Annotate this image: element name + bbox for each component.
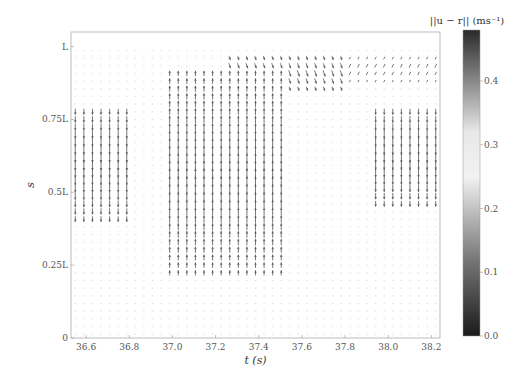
arrow-head — [228, 123, 231, 125]
quiver-arrow — [194, 108, 197, 115]
quiver-arrow — [117, 124, 120, 131]
quiver-arrow — [186, 138, 189, 146]
arrow-head — [186, 108, 189, 110]
quiver-arrow — [228, 270, 231, 275]
quiver-arrow — [220, 262, 223, 267]
quiver-arrow — [263, 63, 265, 68]
arrow-shaft — [435, 57, 436, 60]
arrow-shaft — [392, 80, 393, 82]
quiver-arrow — [375, 72, 377, 75]
quiver-arrow — [332, 63, 334, 68]
quiver-arrow — [186, 153, 189, 162]
quiver-arrow — [418, 72, 420, 75]
arrow-head — [177, 231, 180, 233]
quiver-arrow — [383, 138, 386, 147]
quiver-arrow — [211, 93, 214, 99]
quiver-arrow — [246, 208, 249, 216]
quiver-arrow — [108, 124, 111, 131]
quiver-arrow — [168, 108, 171, 115]
quiver-arrow — [254, 247, 257, 253]
arrow-head — [246, 262, 249, 264]
quiver-arrow — [254, 138, 257, 146]
arrow-head — [280, 262, 283, 264]
arrow-head — [271, 239, 274, 241]
arrow-shaft — [349, 64, 351, 68]
arrow-head — [220, 262, 223, 264]
quiver-arrow — [228, 192, 231, 200]
quiver-arrow — [417, 193, 420, 199]
quiver-arrow — [125, 124, 128, 131]
quiver-arrow — [177, 153, 180, 162]
quiver-arrow — [108, 138, 111, 146]
arrow-head — [417, 175, 420, 177]
arrow-shaft — [426, 57, 427, 60]
arrow-head — [91, 144, 94, 146]
arrow-head — [83, 190, 86, 192]
quiver-arrow — [323, 87, 325, 91]
quiver-arrow — [220, 239, 223, 245]
arrow-head — [237, 108, 240, 110]
quiver-arrow — [435, 57, 436, 60]
quiver-arrow — [177, 138, 180, 146]
arrow-head — [117, 205, 120, 207]
arrow-head — [177, 101, 180, 103]
quiver-arrow — [228, 131, 231, 139]
quiver-arrow — [194, 247, 197, 253]
quiver-arrow — [400, 185, 403, 192]
quiver-arrow — [211, 153, 214, 162]
arrow-shaft — [384, 80, 385, 82]
quiver-arrow — [263, 270, 266, 275]
quiver-arrow — [263, 255, 266, 261]
arrow-head — [194, 101, 197, 103]
arrow-head — [246, 131, 249, 133]
quiver-arrow — [228, 101, 231, 107]
quiver-arrow — [168, 161, 171, 170]
arrow-head — [74, 220, 77, 222]
arrow-head — [426, 168, 429, 170]
quiver-arrow — [426, 193, 429, 199]
arrow-head — [125, 183, 128, 185]
quiver-arrow — [358, 57, 359, 60]
arrow-head — [400, 112, 403, 114]
quiver-arrow — [434, 185, 437, 192]
quiver-arrow — [186, 215, 189, 222]
arrow-head — [125, 212, 128, 214]
quiver-arrow — [100, 208, 103, 214]
quiver-arrow — [263, 116, 266, 123]
quiver-arrow — [417, 123, 420, 130]
quiver-arrow — [108, 192, 111, 199]
arrow-head — [220, 101, 223, 103]
arrow-head — [228, 247, 231, 249]
arrow-head — [194, 86, 197, 88]
arrow-head — [220, 123, 223, 125]
arrow-head — [254, 255, 257, 257]
arrow-head — [91, 152, 94, 154]
quiver-arrow — [125, 146, 128, 155]
arrow-head — [254, 108, 257, 110]
arrow-head — [374, 152, 377, 154]
quiver-arrow — [74, 138, 77, 146]
quiver-arrow — [177, 200, 180, 208]
quiver-arrow — [74, 177, 77, 186]
quiver-arrow — [314, 56, 316, 60]
arrow-head — [100, 168, 103, 170]
arrow-head — [74, 190, 77, 192]
quiver-arrow — [323, 63, 325, 68]
arrow-head — [168, 123, 171, 125]
arrow-head — [194, 108, 197, 110]
quiver-arrow — [211, 184, 214, 193]
quiver-arrow — [340, 56, 342, 60]
arrow-head — [220, 138, 223, 140]
quiver-arrow — [254, 146, 257, 154]
quiver-arrow — [263, 208, 266, 216]
arrow-shaft — [349, 72, 351, 75]
arrow-head — [100, 212, 103, 214]
quiver-arrow — [434, 131, 437, 139]
quiver-arrow — [186, 131, 189, 139]
colorbar: 0.00.10.20.30.4 ||u − r|| (ms⁻¹) — [430, 15, 504, 341]
quiver-arrow — [100, 200, 103, 207]
arrow-head — [409, 152, 412, 154]
arrow-head — [108, 205, 111, 207]
arrow-head — [117, 160, 120, 162]
y-axis: 00.25L0.5L0.75LL — [42, 42, 74, 343]
